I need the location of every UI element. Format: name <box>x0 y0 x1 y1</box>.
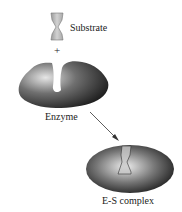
substrate-shape <box>51 13 63 40</box>
plus-sign: + <box>54 44 60 56</box>
enzyme-label: Enzyme <box>45 111 78 122</box>
enzyme-shape <box>19 61 109 108</box>
es-complex-label: E-S complex <box>102 195 154 206</box>
reaction-arrow <box>90 112 116 138</box>
substrate-label: Substrate <box>70 22 107 33</box>
